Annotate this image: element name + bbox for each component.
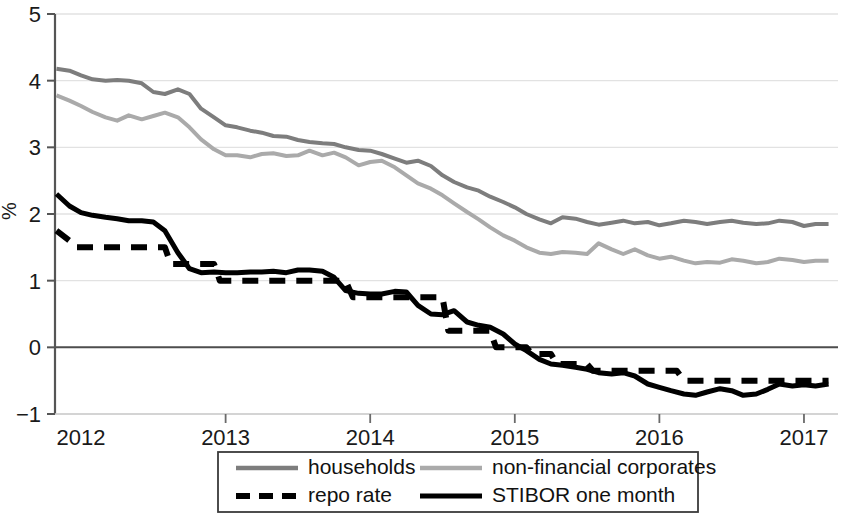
y-axis-ticks: 543210−1 — [16, 2, 55, 427]
y-axis-title: % — [0, 202, 20, 220]
chart-container: 543210−1 201220132014201520162017 % hous… — [0, 0, 845, 515]
x-tick-label: 2012 — [57, 425, 106, 450]
y-tick-label: 4 — [29, 69, 41, 94]
x-tick-label: 2014 — [346, 425, 395, 450]
y-tick-label: 5 — [29, 2, 41, 27]
legend-label: STIBOR one month — [492, 483, 675, 506]
y-tick-label: 3 — [29, 135, 41, 160]
x-tick-label: 2015 — [490, 425, 539, 450]
legend-label: households — [308, 455, 415, 478]
x-axis-ticks: 201220132014201520162017 — [57, 414, 829, 450]
legend-label: non-financial corporates — [492, 455, 716, 478]
series-line — [56, 231, 828, 381]
y-tick-label: 2 — [29, 202, 41, 227]
y-tick-label: 1 — [29, 269, 41, 294]
chart-legend: householdsnon-financial corporatesrepo r… — [218, 452, 716, 512]
y-tick-label: −1 — [16, 402, 41, 427]
x-tick-label: 2013 — [201, 425, 250, 450]
line-chart: 543210−1 201220132014201520162017 % hous… — [0, 0, 845, 515]
series-layer — [56, 69, 828, 396]
series-line — [56, 95, 828, 263]
legend-label: repo rate — [308, 483, 392, 506]
x-tick-label: 2017 — [779, 425, 828, 450]
x-tick-label: 2016 — [635, 425, 684, 450]
gridlines — [55, 14, 838, 414]
y-tick-label: 0 — [29, 335, 41, 360]
